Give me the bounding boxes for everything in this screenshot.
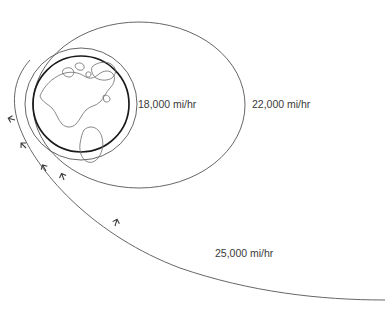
- orbit-diagram: 18,000 mi/hr 22,000 mi/hr 25,000 mi/hr: [0, 0, 387, 313]
- label-elliptical-orbit-speed: 22,000 mi/hr: [252, 98, 311, 110]
- label-escape-trajectory-speed: 25,000 mi/hr: [215, 247, 274, 259]
- diagram-background: [0, 0, 387, 313]
- orbit-diagram-canvas: 18,000 mi/hr 22,000 mi/hr 25,000 mi/hr: [0, 0, 387, 313]
- label-circular-orbit-speed: 18,000 mi/hr: [138, 98, 197, 110]
